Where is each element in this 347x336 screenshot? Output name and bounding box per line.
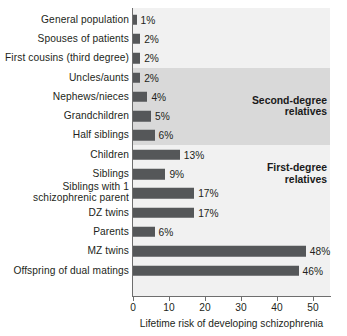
group-annotation-second-degree: Second-degree relatives: [252, 95, 327, 118]
bar-value-label: 6%: [159, 130, 174, 141]
bar-value-label: 1%: [141, 14, 156, 25]
bar-value-label: 5%: [155, 111, 170, 122]
bar-row: General population1%: [0, 10, 347, 29]
bar: [133, 72, 140, 83]
bar: [133, 169, 165, 180]
x-tick-label: 30: [235, 302, 246, 313]
bar: [133, 53, 140, 64]
bar-value-label: 48%: [310, 246, 330, 257]
bar: [133, 265, 299, 276]
bar: [133, 246, 306, 257]
bar-value-label: 4%: [151, 91, 166, 102]
category-label: Children: [90, 149, 129, 160]
category-label: Siblings with 1 schizophrenic parent: [33, 183, 129, 205]
bar-value-label: 6%: [159, 226, 174, 237]
bar: [133, 149, 180, 160]
x-tick-mark: [313, 296, 314, 301]
bar-value-label: 2%: [144, 33, 159, 44]
x-tick-label: 0: [130, 302, 136, 313]
bar-value-label: 2%: [144, 53, 159, 64]
bar: [133, 207, 194, 218]
bar-value-label: 2%: [144, 72, 159, 83]
category-label: First cousins (third degree): [5, 53, 129, 64]
bar-row: Half siblings6%: [0, 126, 347, 145]
x-axis-title: Lifetime risk of developing schizophreni…: [133, 318, 330, 329]
category-label: Offspring of dual matings: [13, 265, 129, 276]
category-label: Half siblings: [73, 130, 129, 141]
x-tick-label: 20: [199, 302, 210, 313]
bar-value-label: 9%: [169, 169, 184, 180]
category-label: DZ twins: [89, 207, 129, 218]
bar-row: Offspring of dual matings46%: [0, 261, 347, 280]
bar-row: Spouses of patients2%: [0, 29, 347, 48]
category-label: Spouses of patients: [38, 34, 129, 45]
bar: [133, 34, 140, 45]
bar: [133, 111, 151, 122]
x-tick-label: 10: [163, 302, 174, 313]
category-label: Grandchildren: [64, 111, 129, 122]
bar-row: DZ twins17%: [0, 203, 347, 222]
bar: [133, 130, 155, 141]
x-tick-label: 50: [307, 302, 318, 313]
bar-row: Parents6%: [0, 222, 347, 241]
bar-value-label: 17%: [198, 188, 218, 199]
bar: [133, 92, 147, 103]
x-tick-label: 40: [271, 302, 282, 313]
category-label: General population: [41, 14, 129, 25]
bar-row: MZ twins48%: [0, 242, 347, 261]
bar-value-label: 17%: [198, 207, 218, 218]
category-label: MZ twins: [87, 246, 129, 257]
bar: [133, 227, 155, 238]
x-tick-mark: [169, 296, 170, 301]
bar: [133, 14, 137, 25]
category-label: Uncles/aunts: [69, 72, 129, 83]
bar: [133, 188, 194, 199]
group-annotation-first-degree: First-degree relatives: [267, 162, 327, 185]
x-tick-mark: [133, 296, 134, 301]
x-tick-mark: [241, 296, 242, 301]
category-label: Siblings: [93, 169, 129, 180]
bar-value-label: 13%: [184, 149, 204, 160]
x-tick-mark: [277, 296, 278, 301]
x-axis-line: [132, 296, 331, 297]
bar-row: Siblings with 1 schizophrenic parent17%: [0, 184, 347, 203]
category-label: Nephews/nieces: [53, 91, 129, 102]
bar-row: Uncles/aunts2%: [0, 68, 347, 87]
category-label: Parents: [93, 227, 129, 238]
x-tick-mark: [205, 296, 206, 301]
bar-value-label: 46%: [303, 265, 323, 276]
schizophrenia-risk-bar-chart: General population1%Spouses of patients2…: [0, 0, 347, 336]
bar-row: First cousins (third degree)2%: [0, 49, 347, 68]
